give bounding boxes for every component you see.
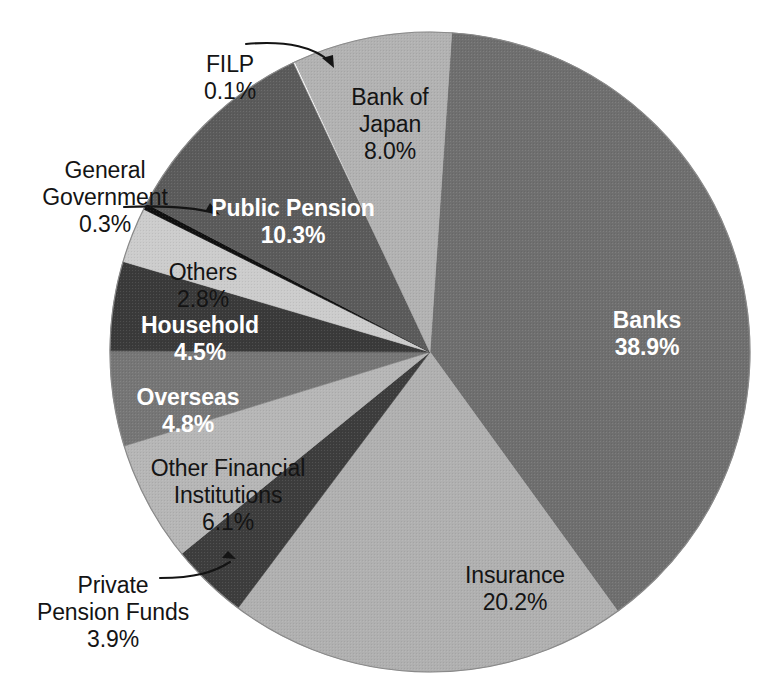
callout-label-filp: FILP 0.1% <box>160 24 300 132</box>
slice-label-insurance-pct: 20.2% <box>430 589 600 616</box>
slice-label-other-financial-institutions-name: Other Financial Institutions <box>151 455 305 508</box>
slice-label-insurance: Insurance 20.2% <box>430 535 600 643</box>
callout-label-private-pension-funds-name: Private Pension Funds <box>37 572 189 625</box>
callout-label-general-government: General Government 0.3% <box>10 130 200 265</box>
slice-label-other-financial-institutions-pct: 6.1% <box>128 509 328 536</box>
pie-chart-figure: Banks 38.9% Bank of Japan 8.0% Public Pe… <box>0 0 765 692</box>
slice-label-overseas-name: Overseas <box>137 384 240 410</box>
slice-label-bank-of-japan-pct: 8.0% <box>330 138 450 165</box>
callout-label-filp-pct: 0.1% <box>160 78 300 105</box>
slice-label-banks: Banks 38.9% <box>572 280 722 388</box>
slice-label-public-pension-name: Public Pension <box>211 195 374 221</box>
callout-label-private-pension-funds-pct: 3.9% <box>8 626 218 653</box>
slice-label-bank-of-japan-name: Bank of Japan <box>351 84 428 137</box>
slice-label-banks-pct: 38.9% <box>572 334 722 361</box>
callout-label-general-government-pct: 0.3% <box>10 211 200 238</box>
slice-label-other-financial-institutions: Other Financial Institutions 6.1% <box>128 428 328 563</box>
slice-label-insurance-name: Insurance <box>465 562 565 588</box>
callout-label-general-government-name: General Government <box>42 157 168 210</box>
slice-label-banks-name: Banks <box>613 307 682 333</box>
callout-label-private-pension-funds: Private Pension Funds 3.9% <box>8 545 218 680</box>
callout-label-filp-name: FILP <box>206 51 254 77</box>
slice-label-household-name: Household <box>141 312 259 338</box>
